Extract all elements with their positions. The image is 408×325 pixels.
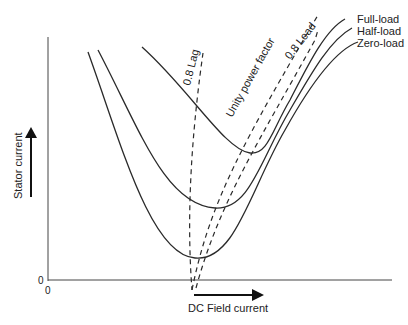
origin-y-zero: 0 xyxy=(38,275,44,286)
zero-load-label: Zero-load xyxy=(357,37,404,49)
y-axis-label: Stator current xyxy=(12,132,24,199)
zero-load-curve xyxy=(88,42,358,258)
x-axis-arrow-icon xyxy=(194,289,264,301)
x-axis-label: DC Field current xyxy=(188,302,268,314)
v-curve-diagram: 0.8 Lag Unity power factor 0.8 Lead Full… xyxy=(0,0,408,325)
full-load-label: Full-load xyxy=(357,13,399,25)
origin-x-zero: 0 xyxy=(45,285,51,296)
lead-08-label: 0.8 Lead xyxy=(282,20,318,61)
half-load-label: Half-load xyxy=(357,25,401,37)
lag-08-label: 0.8 Lag xyxy=(180,48,201,87)
unity-pf-label: Unity power factor xyxy=(223,35,277,119)
y-axis-arrow-icon xyxy=(25,127,37,197)
